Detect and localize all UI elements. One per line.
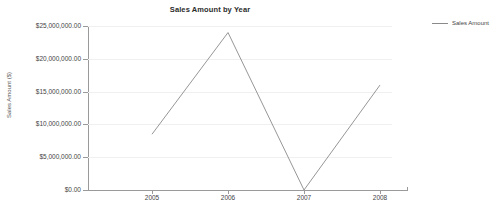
x-axis-tick-label: 2006 bbox=[208, 194, 248, 201]
chart-legend: Sales Amount bbox=[432, 20, 489, 26]
y-axis-tick-label: $20,000,000.00 bbox=[5, 55, 81, 62]
x-axis-tick-label: 2005 bbox=[132, 194, 172, 201]
y-axis-tick bbox=[83, 92, 88, 93]
y-axis-tick-label: $25,000,000.00 bbox=[5, 22, 81, 29]
y-axis-title: Sales Amount ($) bbox=[6, 60, 12, 130]
chart-container: Sales Amount by Year $0.00$5,000,000.00$… bbox=[0, 0, 502, 208]
y-axis-tick-label: $5,000,000.00 bbox=[5, 153, 81, 160]
x-axis-tick bbox=[380, 190, 381, 194]
y-axis-tick bbox=[83, 26, 88, 27]
y-axis-tick-label: $0.00 bbox=[5, 186, 81, 193]
legend-item-label: Sales Amount bbox=[452, 20, 489, 26]
x-axis-line bbox=[88, 190, 408, 191]
y-axis-tick bbox=[83, 190, 88, 191]
series-line-sales-amount bbox=[152, 33, 380, 190]
y-axis-tick-labels: $0.00$5,000,000.00$10,000,000.00$15,000,… bbox=[0, 0, 81, 208]
y-axis-tick bbox=[83, 59, 88, 60]
x-axis-tick bbox=[228, 190, 229, 194]
x-axis-tick-label: 2007 bbox=[284, 194, 324, 201]
x-axis-tick bbox=[152, 190, 153, 194]
legend-line-swatch bbox=[432, 23, 448, 24]
x-axis-end-tick bbox=[407, 187, 408, 191]
x-axis-tick bbox=[304, 190, 305, 194]
plot-area bbox=[88, 26, 392, 190]
y-axis-tick-label: $15,000,000.00 bbox=[5, 88, 81, 95]
series-sales-amount bbox=[88, 26, 392, 190]
y-axis-tick bbox=[83, 124, 88, 125]
x-axis-tick-label: 2008 bbox=[360, 194, 400, 201]
y-axis-tick-label: $10,000,000.00 bbox=[5, 120, 81, 127]
y-axis-tick bbox=[83, 157, 88, 158]
